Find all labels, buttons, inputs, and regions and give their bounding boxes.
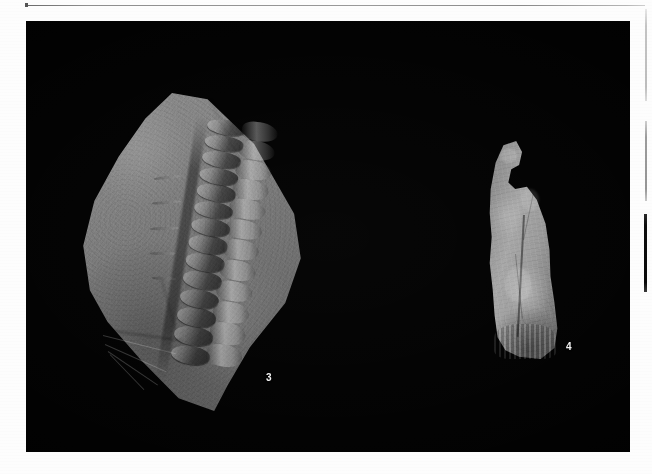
bone-highlight [505, 267, 530, 302]
figure-number-label-4: 4 [566, 342, 572, 352]
bone-highlight [521, 189, 539, 211]
rib-trace [150, 252, 177, 255]
scanned-page: 3 4 [0, 0, 652, 474]
figure-number-label-3: 3 [266, 373, 272, 383]
neural-process [205, 343, 244, 370]
top-horizontal-rule [25, 5, 645, 6]
bone-rugose-margin [494, 324, 557, 359]
figure-3-specimen [81, 93, 303, 411]
figure-4-specimen [476, 141, 574, 359]
bone-highlight [500, 148, 518, 163]
top-rule-tick-mark [25, 3, 28, 7]
photographic-plate: 3 4 [26, 21, 630, 452]
right-margin-rule-light [645, 9, 647, 101]
right-margin-rule-dark [644, 214, 647, 292]
right-margin-rule-gray [645, 121, 647, 201]
